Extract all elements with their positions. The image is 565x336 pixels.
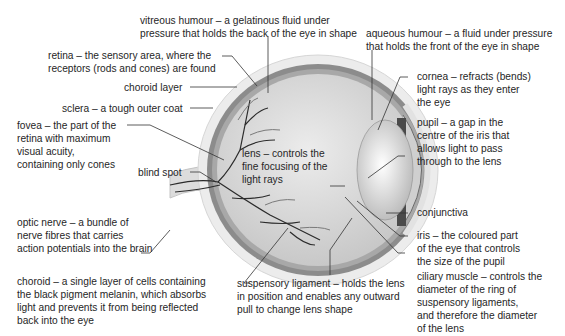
label-pupil: pupil – a gap in the centre of the iris … — [417, 116, 509, 168]
label-choroid: choroid – a single layer of cells contai… — [17, 275, 206, 327]
label-ciliary-muscle: ciliary muscle – controls the diameter o… — [417, 270, 542, 335]
label-fovea: fovea – the part of the retina with maxi… — [17, 119, 116, 171]
label-suspensory-ligament: suspensory ligament – holds the lens in … — [237, 277, 405, 316]
label-choroid-layer: choroid layer — [124, 81, 182, 94]
label-vitreous-humour: vitreous humour – a gelatinous fluid und… — [140, 14, 357, 40]
label-optic-nerve: optic nerve – a bundle of nerve fibres t… — [17, 216, 152, 255]
label-lens: lens – controls the fine focusing of the… — [242, 147, 328, 186]
label-aqueous-humour: aqueous humour – a fluid under pressure … — [366, 27, 552, 53]
label-iris: iris – the coloured part of the eye that… — [417, 229, 520, 268]
label-conjunctiva: conjunctiva — [417, 206, 468, 219]
label-retina: retina – the sensory area, where the rec… — [48, 49, 216, 75]
lens-shape — [357, 120, 413, 220]
label-sclera: sclera – a tough outer coat — [62, 102, 183, 115]
label-blind-spot: blind spot — [138, 166, 182, 179]
label-cornea: cornea – refracts (bends) light rays as … — [417, 70, 531, 109]
